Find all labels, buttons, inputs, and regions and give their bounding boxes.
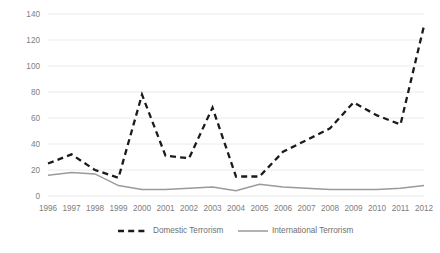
y-axis-tick: 60 (31, 114, 41, 123)
chart-legend: Domestic Terrorism International Terrori… (118, 226, 353, 235)
x-axis-tick: 1996 (39, 204, 58, 213)
x-axis-tick: 2001 (156, 204, 175, 213)
x-axis-tick: 2006 (274, 204, 293, 213)
x-axis-tick: 1997 (62, 204, 81, 213)
y-axis-tick: 20 (31, 166, 41, 175)
x-axis-tick-labels: 1996199719981999200020012002200320042005… (39, 204, 434, 213)
x-axis-tick: 2004 (227, 204, 246, 213)
x-axis-tick: 2012 (415, 204, 434, 213)
x-axis-tick: 2002 (180, 204, 199, 213)
series-line-domestic-terrorism (48, 26, 424, 178)
chart-container: 020406080100120140 199619971998199920002… (0, 0, 440, 253)
x-axis-tick: 1998 (86, 204, 105, 213)
x-axis-tick: 1999 (109, 204, 128, 213)
y-axis-tick: 120 (26, 36, 40, 45)
x-axis-tick: 2011 (392, 204, 410, 213)
x-axis-tick: 2009 (344, 204, 363, 213)
x-axis-tick: 2007 (297, 204, 316, 213)
legend-label-domestic: Domestic Terrorism (153, 226, 224, 235)
x-axis-tick: 2003 (203, 204, 222, 213)
y-axis-tick: 140 (26, 10, 40, 19)
y-axis-tick: 100 (26, 62, 40, 71)
y-axis-tick: 0 (35, 192, 40, 201)
y-axis-tick-labels: 020406080100120140 (26, 10, 40, 201)
y-axis-tick: 40 (31, 140, 41, 149)
line-chart: 020406080100120140 199619971998199920002… (0, 0, 440, 253)
y-axis-tick: 80 (31, 88, 41, 97)
x-axis-tick: 2000 (133, 204, 152, 213)
gridlines (48, 14, 424, 196)
legend-label-international: International Terrorism (272, 226, 353, 235)
x-axis-tick: 2008 (321, 204, 340, 213)
x-axis-tick: 2010 (368, 204, 387, 213)
x-axis-tick: 2005 (250, 204, 269, 213)
